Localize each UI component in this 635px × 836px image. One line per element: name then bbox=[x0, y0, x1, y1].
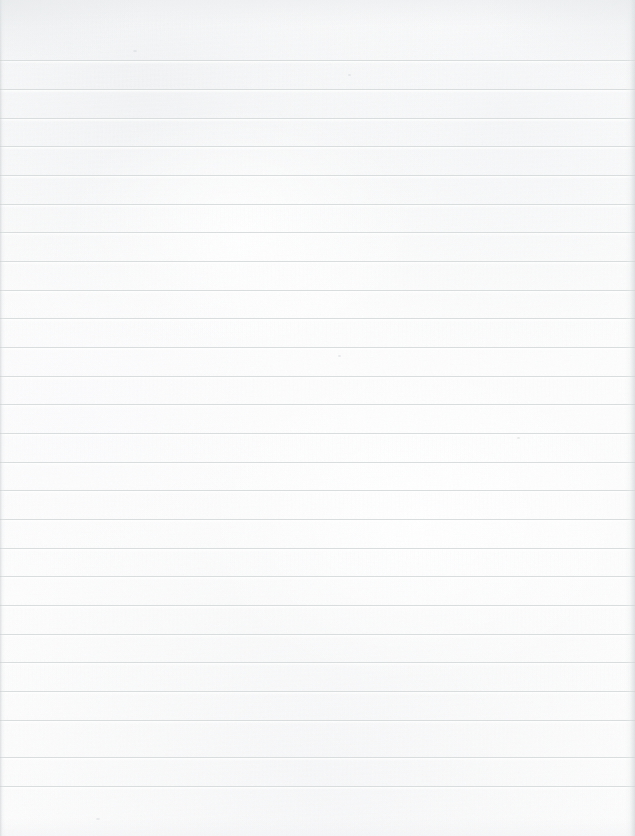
writing-area bbox=[0, 0, 635, 836]
paper-page bbox=[0, 0, 635, 836]
